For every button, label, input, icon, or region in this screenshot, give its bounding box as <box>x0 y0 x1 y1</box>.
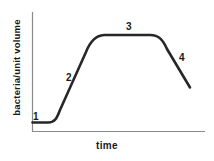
growth-curve-path <box>33 35 191 123</box>
bacterial-growth-curve-chart: 1 2 3 4 time bacteria/unit volume <box>0 0 214 161</box>
phase-label-4: 4 <box>179 53 185 63</box>
y-axis-title: bacteria/unit volume <box>11 8 22 128</box>
phase-label-3: 3 <box>126 22 132 32</box>
chart-plot-area <box>0 0 214 161</box>
phase-label-2: 2 <box>66 73 72 83</box>
x-axis-title: time <box>0 140 214 151</box>
phase-label-1: 1 <box>33 112 39 122</box>
